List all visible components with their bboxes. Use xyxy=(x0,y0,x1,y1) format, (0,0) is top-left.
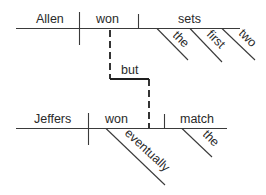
conjunction-but: but xyxy=(121,63,139,77)
verb-2: won xyxy=(104,112,128,126)
object-1: sets xyxy=(178,12,201,26)
object-2: match xyxy=(180,112,214,126)
modifier-two: two xyxy=(236,26,260,50)
clause-1: Allen won sets the first two xyxy=(16,12,260,62)
subject-1: Allen xyxy=(36,12,64,26)
sentence-diagram: Allen won sets the first two but Jeffers… xyxy=(0,0,266,195)
subject-2: Jeffers xyxy=(34,112,71,126)
verb-1: won xyxy=(95,12,119,26)
clause-2: Jeffers won match eventually the xyxy=(16,112,227,185)
modifier-the-1: the xyxy=(170,28,192,50)
modifier-the-2: the xyxy=(200,127,222,149)
